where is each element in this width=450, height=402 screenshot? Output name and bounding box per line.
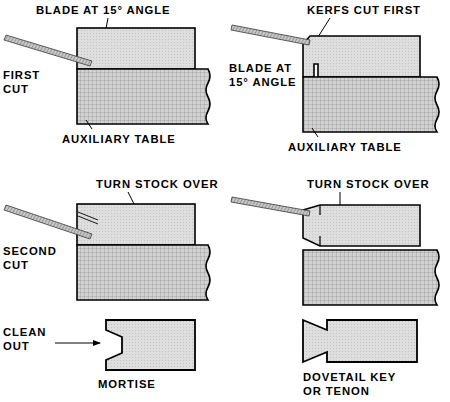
dovetail-key-board: [303, 320, 417, 362]
auxiliary-table: [77, 69, 210, 124]
caption-blade-angle-line1: BLADE AT: [229, 62, 292, 74]
caption-kerfs-cut-first: KERFS CUT FIRST: [307, 4, 421, 16]
auxiliary-table: [303, 250, 439, 305]
caption-blade-angle-line2: 15° ANGLE: [229, 76, 296, 88]
workpiece-stock: [77, 28, 195, 69]
caption-dovetail-key-line2: OR TENON: [303, 385, 370, 397]
caption-turn-stock-over: TURN STOCK OVER: [307, 178, 430, 190]
dovetail-cutting-diagram: BLADE AT 15° ANGLE FIRST CUT AUXILIARY T…: [0, 0, 450, 402]
caption-mortise: MORTISE: [98, 378, 156, 390]
caption-blade-angle: BLADE AT 15° ANGLE: [36, 4, 171, 16]
auxiliary-table: [77, 245, 210, 300]
step-label-first-line1: FIRST: [3, 69, 40, 81]
caption-dovetail-key-line1: DOVETAIL KEY: [303, 371, 396, 383]
step-label-second-line1: SECOND: [3, 245, 57, 257]
step-label-clean-line2: OUT: [3, 340, 30, 352]
workpiece-stock-kerfed: [303, 36, 420, 77]
auxiliary-table: [303, 77, 439, 132]
caption-auxiliary-table: AUXILIARY TABLE: [288, 141, 402, 153]
workpiece-stock: [77, 204, 195, 245]
caption-auxiliary-table: AUXILIARY TABLE: [62, 133, 176, 145]
caption-turn-stock-over: TURN STOCK OVER: [96, 178, 219, 190]
step-label-clean-line1: CLEAN: [3, 326, 46, 338]
step-label-first-line2: CUT: [3, 83, 29, 95]
step-label-second-line2: CUT: [3, 259, 29, 271]
